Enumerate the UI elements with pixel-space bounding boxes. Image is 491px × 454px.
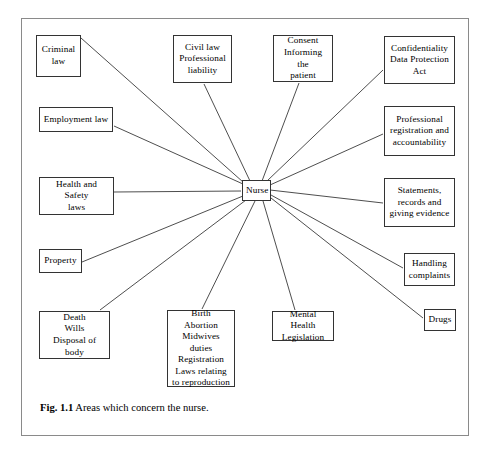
node-handling-complaints[interactable]: Handlingcomplaints <box>404 253 455 286</box>
figure-caption: Fig. 1.1 Areas which concern the nurse. <box>40 401 209 415</box>
node-mental-health-line-0: Mental Health <box>276 309 330 332</box>
node-handling-complaints-line-0: Handling <box>408 258 451 270</box>
node-criminal-law-line-1: law <box>40 56 77 68</box>
node-birth-abortion-line-4: Laws relating <box>171 366 231 378</box>
node-civil-law[interactable]: Civil lawProfessionalliability <box>173 35 232 83</box>
node-confidentiality-line-0: Confidentiality <box>388 43 451 55</box>
node-birth-abortion-label: BirthAbortionMidwives dutiesRegistration… <box>171 308 231 389</box>
node-professional-registration-label: Professionalregistration andaccountabili… <box>388 114 451 149</box>
node-statements-records[interactable]: Statements,records andgiving evidence <box>384 178 455 227</box>
node-professional-registration-line-0: Professional <box>388 114 451 126</box>
node-professional-registration-line-1: registration and <box>388 125 451 137</box>
node-criminal-law-line-0: Criminal <box>40 44 77 56</box>
node-confidentiality-line-2: Act <box>388 66 451 78</box>
node-handling-complaints-label: Handlingcomplaints <box>408 258 451 281</box>
node-birth-abortion-line-3: Registration <box>171 354 231 366</box>
node-confidentiality-line-1: Data Protection <box>388 54 451 66</box>
node-health-safety-label: Health and Safetylaws <box>43 179 110 214</box>
node-health-safety[interactable]: Health and Safetylaws <box>39 177 114 215</box>
node-civil-law-line-2: liability <box>177 65 228 77</box>
node-death-wills-line-0: Death <box>43 312 106 324</box>
node-statements-records-line-1: records and <box>388 197 451 209</box>
node-health-safety-line-0: Health and Safety <box>43 179 110 202</box>
node-statements-records-label: Statements,records andgiving evidence <box>388 185 451 220</box>
node-confidentiality-label: ConfidentialityData ProtectionAct <box>388 43 451 78</box>
node-employment-law[interactable]: Employment law <box>39 107 113 132</box>
node-consent-line-2: patient <box>277 70 329 82</box>
node-civil-law-line-0: Civil law <box>177 42 228 54</box>
node-criminal-law[interactable]: Criminallaw <box>36 35 81 77</box>
node-drugs-label: Drugs <box>428 314 452 326</box>
node-nurse-label: Nurse <box>246 185 267 197</box>
node-professional-registration[interactable]: Professionalregistration andaccountabili… <box>384 106 455 156</box>
node-confidentiality[interactable]: ConfidentialityData ProtectionAct <box>384 36 455 84</box>
node-birth-abortion-line-2: Midwives duties <box>171 331 231 354</box>
node-employment-law-label: Employment law <box>43 114 109 126</box>
node-consent-line-1: Informing the <box>277 47 329 70</box>
node-mental-health[interactable]: Mental HealthLegislation <box>272 311 334 341</box>
figure-caption-text: Areas which concern the nurse. <box>75 402 208 413</box>
node-nurse[interactable]: Nurse <box>242 180 271 201</box>
node-birth-abortion-line-0: Birth <box>171 308 231 320</box>
node-birth-abortion-line-5: to reproduction <box>171 377 231 389</box>
node-property-label: Property <box>43 255 78 267</box>
node-employment-law-line-0: Employment law <box>43 114 109 126</box>
node-health-safety-line-1: laws <box>43 202 110 214</box>
node-criminal-law-label: Criminallaw <box>40 44 77 67</box>
node-mental-health-label: Mental HealthLegislation <box>276 309 330 344</box>
figure-caption-label: Fig. 1.1 <box>40 402 73 413</box>
node-handling-complaints-line-1: complaints <box>408 270 451 282</box>
node-civil-law-label: Civil lawProfessionalliability <box>177 42 228 77</box>
node-mental-health-line-1: Legislation <box>276 332 330 344</box>
node-drugs[interactable]: Drugs <box>424 309 456 331</box>
node-death-wills-label: DeathWillsDisposal of body <box>43 312 106 358</box>
node-death-wills-line-2: Disposal of body <box>43 335 106 358</box>
node-birth-abortion-line-1: Abortion <box>171 320 231 332</box>
node-statements-records-line-2: giving evidence <box>388 208 451 220</box>
node-consent-label: ConsentInforming thepatient <box>277 35 329 81</box>
node-professional-registration-line-2: accountability <box>388 137 451 149</box>
node-consent-line-0: Consent <box>277 35 329 47</box>
node-civil-law-line-1: Professional <box>177 53 228 65</box>
figure-page: CriminallawCivil lawProfessionalliabilit… <box>0 0 491 454</box>
node-drugs-line-0: Drugs <box>428 314 452 326</box>
node-property[interactable]: Property <box>39 249 82 273</box>
node-birth-abortion[interactable]: BirthAbortionMidwives dutiesRegistration… <box>167 310 235 387</box>
node-death-wills-line-1: Wills <box>43 323 106 335</box>
node-statements-records-line-0: Statements, <box>388 185 451 197</box>
node-death-wills[interactable]: DeathWillsDisposal of body <box>39 311 110 359</box>
node-property-line-0: Property <box>43 255 78 267</box>
node-consent[interactable]: ConsentInforming thepatient <box>273 35 333 82</box>
